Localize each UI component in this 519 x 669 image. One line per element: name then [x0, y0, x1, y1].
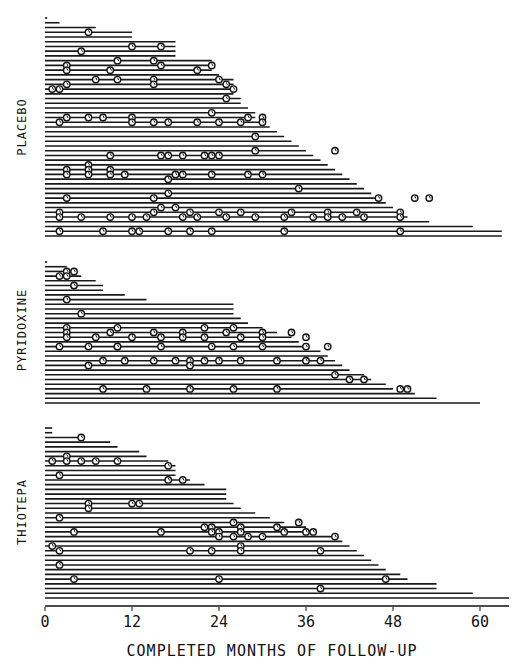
patient-row: [45, 311, 234, 317]
patient-row: [45, 334, 309, 340]
recurrence-marker-icon: [216, 576, 222, 582]
recurrence-marker-icon: [281, 214, 287, 220]
recurrence-marker-icon: [78, 311, 84, 317]
recurrence-marker-icon: [339, 214, 345, 220]
group-placebo: [45, 18, 502, 236]
recurrence-marker-icon: [238, 529, 244, 535]
recurrence-marker-icon: [216, 358, 222, 364]
recurrence-marker-icon: [209, 228, 215, 234]
recurrence-marker-icon: [209, 110, 215, 116]
recurrence-marker-icon: [136, 500, 142, 506]
recurrence-marker-icon: [317, 548, 323, 554]
recurrence-marker-icon: [151, 119, 157, 125]
recurrence-marker-icon: [361, 376, 367, 382]
recurrence-marker-icon: [238, 119, 244, 125]
recurrence-marker-icon: [158, 204, 164, 210]
recurrence-marker-icon: [274, 386, 280, 392]
recurrence-marker-icon: [187, 362, 193, 368]
recurrence-marker-icon: [281, 529, 287, 535]
x-axis-ticks: 01224364860: [40, 606, 509, 631]
recurrence-marker-icon: [172, 204, 178, 210]
recurrence-marker-icon: [56, 562, 62, 568]
recurrence-marker-icon: [245, 171, 251, 177]
recurrence-marker-icon: [56, 86, 62, 92]
patient-row: [45, 214, 408, 220]
recurrence-marker-icon: [71, 282, 77, 288]
patient-row: [45, 543, 350, 549]
patient-row: [45, 152, 313, 158]
x-tick-label: 0: [40, 613, 49, 631]
patient-row: [45, 372, 364, 378]
patient-row: [45, 362, 342, 368]
recurrence-marker-icon: [64, 334, 70, 340]
recurrence-marker-icon: [49, 86, 55, 92]
recurrence-marker-icon: [325, 214, 331, 220]
recurrence-marker-icon: [310, 214, 316, 220]
recurrence-marker-icon: [187, 209, 193, 215]
recurrence-marker-icon: [78, 458, 84, 464]
patient-row: [45, 185, 364, 191]
recurrence-marker-icon: [114, 57, 120, 63]
recurrence-marker-icon: [209, 343, 215, 349]
x-tick-label: 24: [210, 613, 228, 631]
recurrence-marker-icon: [165, 152, 171, 158]
patient-row: [45, 376, 371, 382]
recurrence-marker-icon: [129, 334, 135, 340]
recurrence-marker-icon: [216, 533, 222, 539]
recurrence-marker-icon: [151, 358, 157, 364]
recurrence-marker-icon: [397, 214, 403, 220]
recurrence-marker-icon: [230, 386, 236, 392]
recurrence-marker-icon: [230, 533, 236, 539]
recurrence-marker-icon: [165, 190, 171, 196]
recurrence-marker-icon: [93, 458, 99, 464]
recurrence-marker-icon: [64, 114, 70, 120]
recurrence-marker-icon: [172, 358, 178, 364]
recurrence-marker-icon: [252, 214, 258, 220]
recurrence-marker-icon: [216, 76, 222, 82]
recurrence-marker-icon: [397, 386, 403, 392]
recurrence-marker-icon: [165, 119, 171, 125]
patient-row: [45, 171, 342, 177]
recurrence-marker-icon: [259, 343, 265, 349]
recurrence-marker-icon: [56, 214, 62, 220]
recurrence-marker-icon: [230, 343, 236, 349]
patient-row: [45, 67, 212, 73]
patient-row: [45, 119, 266, 125]
patient-row: [45, 29, 132, 35]
recurrence-marker-icon: [56, 228, 62, 234]
patient-row: [45, 585, 437, 591]
recurrence-marker-icon: [78, 434, 84, 440]
recurrence-marker-icon: [71, 529, 77, 535]
recurrence-marker-icon: [209, 62, 215, 68]
recurrence-marker-icon: [136, 228, 142, 234]
recurrence-marker-icon: [238, 548, 244, 554]
recurrence-marker-icon: [209, 529, 215, 535]
recurrence-marker-icon: [56, 273, 62, 279]
recurrence-marker-icon: [71, 268, 77, 274]
recurrence-marker-icon: [201, 325, 207, 331]
patient-row: [45, 147, 338, 153]
recurrence-marker-icon: [209, 548, 215, 554]
recurrence-marker-icon: [252, 133, 258, 139]
recurrence-marker-icon: [194, 67, 200, 73]
recurrence-marker-icon: [64, 195, 70, 201]
patient-row: [45, 296, 147, 302]
patient-row: [45, 386, 411, 392]
patient-row: [45, 329, 295, 335]
recurrence-marker-icon: [129, 43, 135, 49]
recurrence-marker-icon: [64, 171, 70, 177]
recurrence-marker-icon: [281, 228, 287, 234]
recurrence-marker-icon: [172, 171, 178, 177]
group-pyridoxine: [45, 262, 480, 403]
recurrence-marker-icon: [303, 529, 309, 535]
recurrence-marker-icon: [201, 334, 207, 340]
group-label-thiotepa: THIOTEPA: [15, 479, 29, 545]
x-axis: 01224364860 COMPLETED MONTHS OF FOLLOW-U…: [40, 606, 509, 660]
x-axis-title: COMPLETED MONTHS OF FOLLOW-UP: [127, 642, 418, 660]
recurrence-marker-icon: [114, 325, 120, 331]
recurrence-marker-icon: [223, 81, 229, 87]
recurrence-marker-icon: [238, 358, 244, 364]
recurrence-marker-icon: [180, 334, 186, 340]
recurrence-marker-icon: [216, 119, 222, 125]
patient-row: [45, 86, 237, 92]
